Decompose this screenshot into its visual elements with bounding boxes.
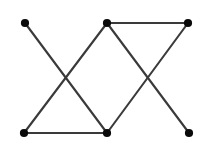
graph-vertex bbox=[103, 129, 111, 137]
graph-vertex bbox=[21, 19, 29, 27]
graph-vertex bbox=[20, 129, 28, 137]
graph-vertex bbox=[185, 129, 193, 137]
graph-vertex bbox=[184, 19, 192, 27]
graph-canvas bbox=[0, 0, 200, 157]
graph-figure bbox=[0, 0, 200, 157]
graph-vertex bbox=[103, 19, 111, 27]
